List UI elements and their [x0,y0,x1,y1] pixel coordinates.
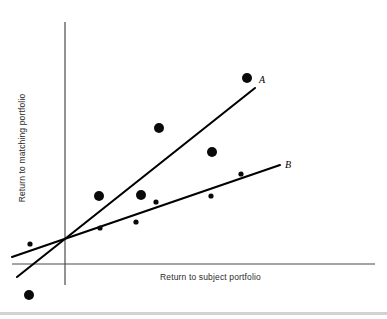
data-point [94,191,104,201]
regression-line-a [17,88,255,277]
data-point [238,171,243,176]
data-point [207,147,217,157]
series-label-a: A [259,74,265,85]
data-point [154,123,164,133]
data-point [208,193,213,198]
data-point [133,219,138,224]
data-point [136,190,146,200]
regression-line-b [12,165,280,257]
data-point [97,225,102,230]
series-label-b: B [285,159,291,170]
data-point [242,73,252,83]
data-point [153,199,158,204]
data-point [27,241,32,246]
data-point [24,290,34,300]
x-axis-label: Return to subject portfolio [160,272,261,282]
y-axis-label: Return to matching portfolio [17,88,27,208]
scatter-plot-figure: A B Return to subject portfolio Return t… [0,0,387,319]
bottom-margin [0,315,387,319]
